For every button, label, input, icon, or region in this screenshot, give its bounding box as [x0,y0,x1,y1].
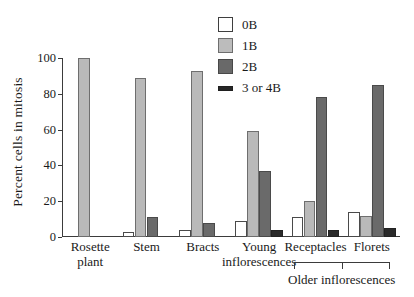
older-inflorescences-bracket [294,262,390,271]
y-axis-tick-label: 40 [44,158,57,173]
legend-label: 3 or 4B [242,80,281,96]
legend: 0B1B2B3 or 4B [218,14,328,98]
legend-label: 0B [242,17,257,33]
bar [348,212,360,237]
y-axis-title-text: Percent cells in mitosis [10,77,26,207]
bar [191,71,203,237]
y-axis-tick-label: 20 [44,194,57,209]
bar-group [62,58,118,237]
bar [203,223,215,237]
bar [247,131,259,237]
legend-item: 3 or 4B [218,77,328,98]
bar [259,171,271,237]
bar [271,230,283,237]
y-axis-tick-label: 60 [44,122,57,137]
bar-group [344,58,400,237]
bracket-middle-tick [342,262,343,269]
x-axis-label: Florets [317,240,414,255]
bar-chart-figure: Percent cells in mitosis 020406080100 Ro… [0,0,414,297]
bracket-right-tick [389,262,390,269]
bar [135,78,147,237]
legend-label: 2B [242,59,257,75]
y-axis-tick-label: 100 [37,51,56,66]
legend-item: 2B [218,56,328,77]
bar [384,228,396,237]
bar [147,217,159,237]
bar [360,216,372,237]
bar [372,85,384,237]
bar-group [118,58,174,237]
bracket-label: Older inflorescences [252,272,414,288]
y-axis-title: Percent cells in mitosis [8,42,28,242]
bar [316,97,328,237]
legend-swatch [218,17,233,32]
bar [123,232,135,237]
bar [304,201,316,237]
bar [78,58,90,237]
bar [235,221,247,237]
bar [292,217,304,237]
legend-swatch [218,59,233,74]
bracket-left-tick [294,262,295,269]
bar [179,230,191,237]
bar [328,230,340,237]
legend-item: 1B [218,35,328,56]
legend-swatch [218,38,233,53]
legend-item: 0B [218,14,328,35]
y-axis-tick-mark [58,237,62,238]
y-axis-tick-label: 80 [44,86,57,101]
legend-label: 1B [242,38,257,54]
legend-swatch [218,86,233,91]
